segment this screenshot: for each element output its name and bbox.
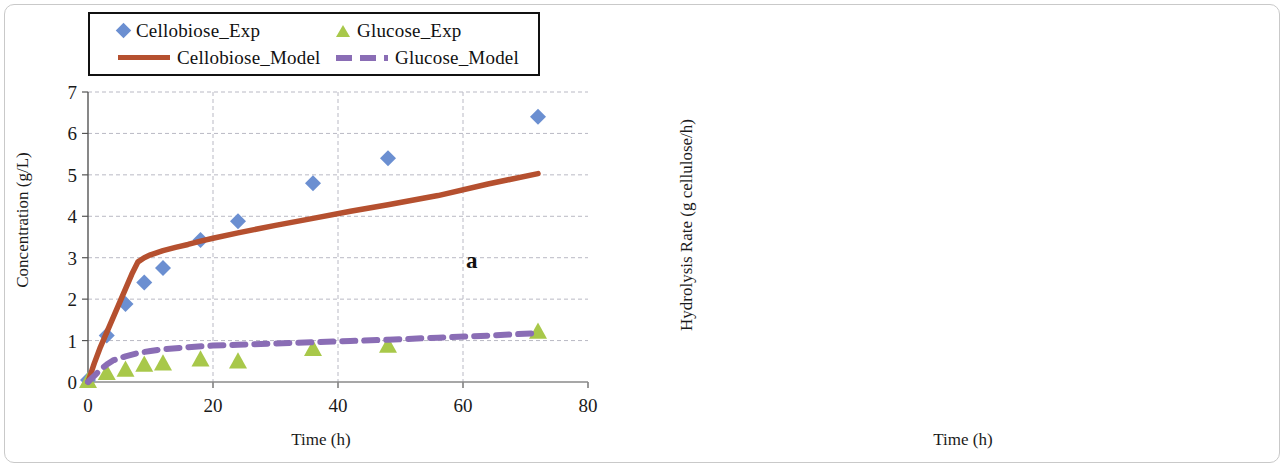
- legend-label: Glucose_Exp: [357, 20, 462, 42]
- legend-label: Cellobiose_Model: [177, 47, 321, 69]
- solid-line-marker-icon: [118, 55, 170, 60]
- svg-text:3: 3: [68, 248, 78, 269]
- svg-text:0: 0: [83, 395, 93, 416]
- svg-text:40: 40: [329, 395, 348, 416]
- chart-panel-a: Cellobiose_Exp Glucose_Exp Cellobiose_Mo…: [0, 0, 642, 467]
- diamond-marker-icon: [116, 23, 132, 39]
- svg-text:20: 20: [204, 395, 223, 416]
- svg-text:2: 2: [68, 289, 78, 310]
- chart-panel-b: Model Experimental Hydrolysis Rate (g ce…: [642, 0, 1284, 467]
- svg-text:5: 5: [68, 165, 78, 186]
- legend-label: Cellobiose_Exp: [136, 20, 260, 42]
- svg-text:80: 80: [579, 395, 598, 416]
- triangle-marker-icon: [336, 25, 350, 37]
- svg-text:7: 7: [68, 82, 78, 103]
- legend-label: Glucose_Model: [395, 47, 519, 69]
- dashed-line-marker-icon: [336, 55, 388, 61]
- legend-item-glucose-exp: Glucose_Exp: [314, 17, 532, 44]
- legend-item-glucose-model: Glucose_Model: [314, 44, 532, 71]
- plot-area-b: 00.10.20.30.40.50.6020406080b: [642, 0, 1284, 467]
- svg-text:4: 4: [68, 206, 78, 227]
- legend-panel-a: Cellobiose_Exp Glucose_Exp Cellobiose_Mo…: [88, 12, 540, 76]
- figure-container: Cellobiose_Exp Glucose_Exp Cellobiose_Mo…: [0, 0, 1284, 467]
- svg-text:1: 1: [68, 331, 78, 352]
- svg-text:a: a: [466, 248, 478, 273]
- svg-text:60: 60: [454, 395, 473, 416]
- svg-text:0: 0: [68, 372, 78, 393]
- svg-text:6: 6: [68, 123, 78, 144]
- legend-item-cellobiose-model: Cellobiose_Model: [96, 44, 314, 71]
- legend-item-cellobiose-exp: Cellobiose_Exp: [96, 17, 314, 44]
